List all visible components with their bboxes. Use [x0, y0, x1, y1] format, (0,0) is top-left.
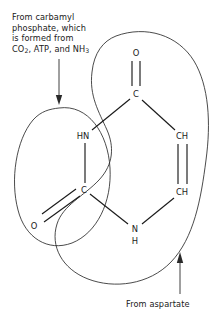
aspartate-caption: From aspartate — [126, 299, 190, 310]
bond-CH-down-CH-up-double — [178, 144, 187, 184]
atom-label-O-top: O — [133, 48, 140, 58]
aspartate-arrow — [177, 252, 183, 294]
atom-label-O-left: O — [31, 221, 38, 231]
bond-O-top-C-top-double — [132, 61, 140, 86]
atom-label-N: N — [132, 224, 138, 234]
atom-label-C-left: C — [81, 185, 87, 195]
carbamyl-phosphate-caption: From carbamyl phosphate, which is formed… — [12, 12, 89, 55]
figure-canvas: O C HN C O CH CH N H From carbamyl phosp… — [0, 0, 217, 320]
carbamyl-phosphate-outline — [14, 108, 110, 246]
carbamyl-arrow — [56, 59, 62, 105]
bond-C-left-N — [90, 194, 128, 224]
bond-C-top-HN — [92, 99, 130, 130]
bond-C-left-O-left-double — [42, 189, 80, 222]
atom-label-HN: HN — [77, 131, 90, 141]
caption-co2-subscript: 2 — [24, 47, 28, 54]
caption-co2-text: CO — [12, 44, 24, 54]
caption-top-line2: phosphate, which — [12, 23, 86, 33]
caption-top-line4: CO2, ATP, and NH3 — [12, 44, 89, 54]
bond-N-CH-down — [142, 198, 174, 224]
atom-label-C-top: C — [133, 89, 139, 99]
atom-label-CH-up: CH — [176, 131, 188, 141]
caption-top-line1: From carbamyl — [12, 12, 74, 22]
atom-label-N-hydrogen: H — [132, 236, 138, 246]
caption-top-line3: is formed from — [12, 33, 74, 43]
caption-nh3-subscript: 3 — [85, 47, 89, 54]
atom-label-CH-down: CH — [176, 187, 188, 197]
bond-CH-up-C-top — [142, 100, 175, 130]
caption-atp-text: , ATP, and NH — [28, 44, 85, 54]
